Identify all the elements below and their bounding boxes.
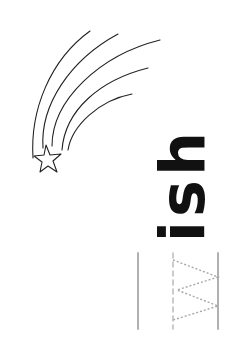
traced-letter-w xyxy=(173,260,218,320)
star-icon xyxy=(34,145,61,172)
star-trail-lines xyxy=(33,31,160,158)
word-remainder: ish xyxy=(152,128,214,242)
